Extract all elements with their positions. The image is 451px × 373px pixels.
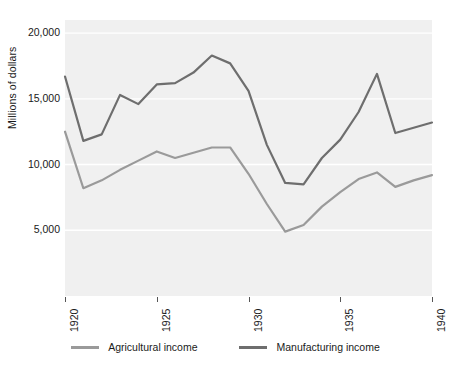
legend-label-agricultural: Agricultural income	[108, 341, 197, 353]
line-chart: Millions of dollars 5,00010,00015,00020,…	[0, 0, 451, 373]
legend-item-agricultural[interactable]: Agricultural income	[71, 341, 197, 353]
x-tick-mark	[432, 297, 433, 302]
legend-swatch-manufacturing	[239, 346, 267, 349]
legend-item-manufacturing[interactable]: Manufacturing income	[239, 341, 379, 353]
x-tick-mark	[340, 297, 341, 302]
x-tick-mark	[249, 297, 250, 302]
x-tick-label: 1930	[253, 309, 264, 332]
x-tick-label: 1925	[161, 309, 172, 332]
x-tick-label: 1920	[69, 309, 80, 332]
legend-label-manufacturing: Manufacturing income	[276, 341, 379, 353]
chart-legend: Agricultural income Manufacturing income	[0, 341, 451, 353]
x-tick-mark	[157, 297, 158, 302]
x-tick-mark	[65, 297, 66, 302]
x-tick-label: 1935	[344, 309, 355, 332]
plot-background	[65, 20, 432, 296]
x-tick-label: 1940	[436, 309, 447, 332]
legend-swatch-agricultural	[71, 346, 99, 349]
